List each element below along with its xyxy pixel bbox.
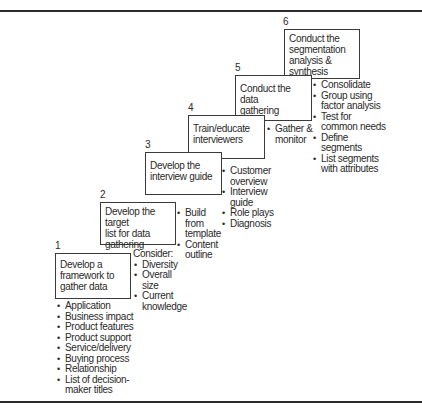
step-4-detail: Customer overview bbox=[221, 166, 274, 187]
step-5-title: Conduct the data gathering bbox=[240, 83, 307, 116]
step-5-detail: Gather & monitor bbox=[266, 124, 313, 145]
step-1-detail: Service/delivery bbox=[56, 343, 134, 354]
step-6-detail: Test for common needs bbox=[312, 112, 386, 133]
step-2-detail: Overall size bbox=[133, 270, 187, 291]
step-6-details: Consolidate Group using factor analysis … bbox=[312, 80, 386, 175]
step-2-details: Consider: Diversity Overall size Current… bbox=[133, 249, 187, 312]
step-6-detail: Define segments bbox=[312, 133, 386, 154]
step-4-detail: Role plays bbox=[221, 208, 274, 219]
step-2-detail: Current knowledge bbox=[133, 291, 187, 312]
top-rule bbox=[0, 10, 422, 12]
step-4-details: Customer overview Interview guide Role p… bbox=[221, 166, 274, 229]
step-3-box: Develop the interview guide bbox=[145, 152, 222, 195]
step-6-box: Conduct the segmentation analysis & synt… bbox=[284, 29, 360, 79]
bottom-rule bbox=[0, 401, 422, 403]
step-2-details-heading: Consider: bbox=[133, 249, 187, 260]
step-4-title: Train/educate interviewers bbox=[193, 123, 260, 145]
step-1-box: Develop a framework to gather data bbox=[55, 253, 131, 299]
step-6-title: Conduct the segmentation analysis & synt… bbox=[289, 33, 355, 77]
step-1-details: Application Business impact Product feat… bbox=[56, 301, 134, 396]
step-6-detail: Group using factor analysis bbox=[312, 91, 386, 112]
step-1-detail: Relationship bbox=[56, 364, 134, 375]
step-6-detail: List segments with attributes bbox=[312, 154, 386, 175]
step-1-number: 1 bbox=[55, 241, 61, 251]
step-4-detail: Interview guide bbox=[221, 187, 274, 208]
step-1-detail: List of decision- maker titles bbox=[56, 375, 134, 396]
step-1-detail: Product features bbox=[56, 322, 134, 333]
step-4-number: 4 bbox=[188, 103, 194, 113]
step-5-details: Gather & monitor bbox=[266, 124, 313, 145]
step-1-title: Develop a framework to gather data bbox=[60, 259, 126, 292]
step-2-number: 2 bbox=[100, 190, 106, 200]
step-5-number: 5 bbox=[235, 63, 241, 73]
step-4-detail: Diagnosis bbox=[221, 219, 274, 230]
step-3-detail: Build from template bbox=[176, 208, 221, 240]
step-3-title: Develop the interview guide bbox=[150, 160, 217, 182]
step-6-detail: Consolidate bbox=[312, 80, 386, 91]
step-2-box: Develop the target list for data gatheri… bbox=[100, 202, 176, 245]
step-1-detail: Application bbox=[56, 301, 134, 312]
step-2-title: Develop the target list for data gatheri… bbox=[105, 206, 171, 250]
step-6-number: 6 bbox=[283, 17, 289, 27]
step-3-number: 3 bbox=[145, 140, 151, 150]
